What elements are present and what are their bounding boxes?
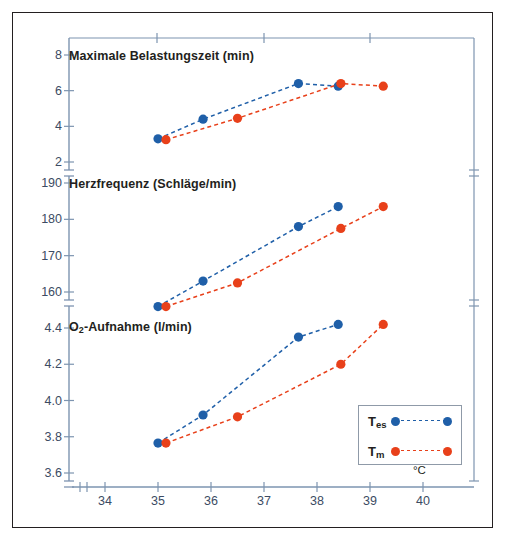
x-tick-label-1: 35 bbox=[151, 494, 165, 508]
y-tick-label-herzfrequenz-0: 160 bbox=[20, 285, 62, 299]
panel-title-belastungszeit: Maximale Belastungszeit (min) bbox=[69, 49, 254, 63]
series-line-o2-aufnahme-Tes bbox=[158, 324, 338, 443]
x-tick-label-5: 39 bbox=[363, 494, 377, 508]
data-point-belastungszeit-Tm-0[interactable] bbox=[161, 135, 170, 144]
series-line-herzfrequenz-Tes bbox=[158, 207, 338, 307]
y-tick-label-o2-aufnahme-1: 3.8 bbox=[20, 430, 62, 444]
data-point-herzfrequenz-Tm-2[interactable] bbox=[336, 224, 345, 233]
y-tick-label-belastungszeit-1: 4 bbox=[20, 119, 62, 133]
data-point-belastungszeit-Tes-2[interactable] bbox=[294, 79, 303, 88]
data-point-o2-aufnahme-Tm-2[interactable] bbox=[336, 360, 345, 369]
legend-swatch-tes bbox=[391, 415, 452, 427]
data-point-belastungszeit-Tm-2[interactable] bbox=[336, 79, 345, 88]
x-tick-label-0: 34 bbox=[98, 494, 112, 508]
data-point-belastungszeit-Tes-1[interactable] bbox=[198, 115, 207, 124]
chart-legend: Tes Tm bbox=[358, 405, 462, 465]
data-point-herzfrequenz-Tm-3[interactable] bbox=[379, 202, 388, 211]
y-tick-label-herzfrequenz-1: 170 bbox=[20, 249, 62, 263]
y-tick-label-herzfrequenz-3: 190 bbox=[20, 176, 62, 190]
data-point-herzfrequenz-Tm-0[interactable] bbox=[161, 302, 170, 311]
series-line-belastungszeit-Tes bbox=[158, 84, 338, 139]
data-point-herzfrequenz-Tes-2[interactable] bbox=[294, 222, 303, 231]
panel-title-herzfrequenz: Herzfrequenz (Schläge/min) bbox=[69, 177, 236, 191]
data-point-herzfrequenz-Tes-0[interactable] bbox=[153, 302, 162, 311]
legend-item-tes[interactable]: Tes bbox=[359, 406, 461, 436]
y-tick-label-belastungszeit-0: 2 bbox=[20, 155, 62, 169]
panel-title-o2-aufnahme: O2-Aufnahme (l/min) bbox=[69, 320, 192, 334]
data-point-o2-aufnahme-Tm-1[interactable] bbox=[233, 412, 242, 421]
legend-label-tm: Tm bbox=[359, 444, 391, 459]
data-point-belastungszeit-Tm-1[interactable] bbox=[233, 114, 242, 123]
series-line-herzfrequenz-Tm bbox=[166, 207, 383, 307]
y-tick-label-herzfrequenz-2: 180 bbox=[20, 212, 62, 226]
data-point-belastungszeit-Tm-3[interactable] bbox=[379, 82, 388, 91]
y-tick-label-o2-aufnahme-0: 3.6 bbox=[20, 466, 62, 480]
x-tick-label-2: 36 bbox=[204, 494, 218, 508]
legend-label-tes: Tes bbox=[359, 414, 391, 429]
legend-dash-tes bbox=[395, 420, 448, 421]
series-line-o2-aufnahme-Tm bbox=[166, 324, 383, 443]
legend-dot-right-tes bbox=[443, 417, 452, 426]
x-tick-label-3: 37 bbox=[257, 494, 271, 508]
data-point-herzfrequenz-Tm-1[interactable] bbox=[233, 278, 242, 287]
y-tick-label-belastungszeit-2: 6 bbox=[20, 84, 62, 98]
data-point-herzfrequenz-Tes-3[interactable] bbox=[334, 202, 343, 211]
data-point-herzfrequenz-Tes-1[interactable] bbox=[198, 277, 207, 286]
y-tick-label-belastungszeit-3: 8 bbox=[20, 48, 62, 62]
y-tick-label-o2-aufnahme-2: 4.0 bbox=[20, 394, 62, 408]
legend-dot-left-tes bbox=[391, 417, 400, 426]
x-tick-label-6: 40 bbox=[416, 494, 430, 508]
legend-item-tm[interactable]: Tm bbox=[359, 436, 461, 466]
data-point-o2-aufnahme-Tm-0[interactable] bbox=[161, 438, 170, 447]
chart-figure: 24681601701801903.63.84.04.24.4 34353637… bbox=[0, 0, 505, 540]
legend-dot-left-tm bbox=[391, 447, 400, 456]
y-tick-label-o2-aufnahme-3: 4.2 bbox=[20, 357, 62, 371]
x-tick-label-4: 38 bbox=[310, 494, 324, 508]
data-point-o2-aufnahme-Tes-1[interactable] bbox=[198, 410, 207, 419]
data-point-o2-aufnahme-Tes-0[interactable] bbox=[153, 438, 162, 447]
y-tick-label-o2-aufnahme-4: 4.4 bbox=[20, 321, 62, 335]
legend-dash-tm bbox=[395, 450, 448, 451]
data-point-o2-aufnahme-Tes-3[interactable] bbox=[334, 320, 343, 329]
legend-dot-right-tm bbox=[443, 447, 452, 456]
data-point-o2-aufnahme-Tm-3[interactable] bbox=[379, 320, 388, 329]
legend-swatch-tm bbox=[391, 445, 452, 457]
data-point-o2-aufnahme-Tes-2[interactable] bbox=[294, 332, 303, 341]
data-point-belastungszeit-Tes-0[interactable] bbox=[153, 134, 162, 143]
